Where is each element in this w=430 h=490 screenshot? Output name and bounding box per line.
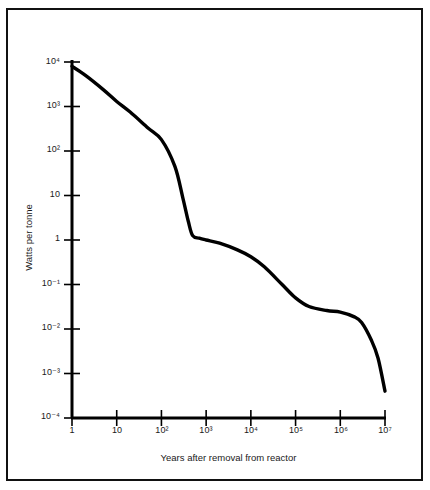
y-tick-label-1: 10³ [28,100,60,110]
axes [71,60,386,418]
x-axis-title: Years after removal from reactor [72,452,385,463]
y-tick-label-6: 10⁻² [24,322,60,332]
x-tick-label-2: 10² [148,425,176,435]
x-tick-label-6: 10⁶ [327,425,355,435]
x-tick-label-1: 10 [103,425,131,435]
figure-container: 10⁴ 10³ 10² 10 1 10⁻¹ 10⁻² 10⁻³ 10⁻⁴ 1 1… [0,0,430,490]
chart-plot-area [0,0,430,490]
x-tick-label-0: 1 [58,425,86,435]
y-axis-title: Watts per tonne [23,178,34,298]
x-tick-label-3: 10³ [192,425,220,435]
decay-curve [72,66,385,391]
y-tick-label-7: 10⁻³ [24,367,60,377]
x-tick-label-5: 10⁵ [282,425,310,435]
y-tick-label-2: 10² [28,144,60,154]
y-tick-label-8: 10⁻⁴ [24,411,60,421]
x-tick-label-4: 10⁴ [237,425,265,435]
x-tick-label-7: 10⁷ [371,425,399,435]
y-tick-label-0: 10⁴ [28,56,60,66]
